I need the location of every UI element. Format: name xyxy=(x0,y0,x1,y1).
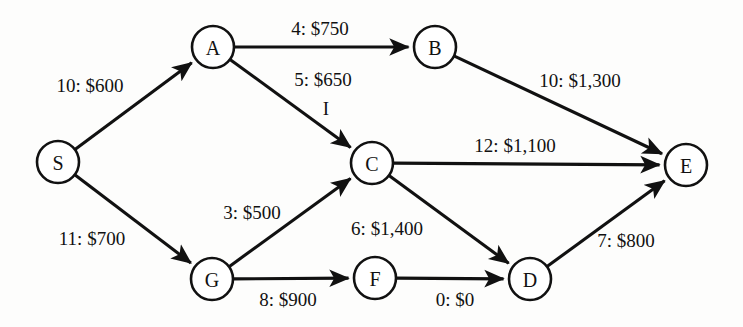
edge-g-f xyxy=(233,278,348,279)
node-e[interactable]: E xyxy=(665,144,707,186)
edge-label-b-e: 10: $1,300 xyxy=(539,70,620,91)
node-g[interactable]: G xyxy=(191,258,233,300)
edge-label-a-c: 5: $650 xyxy=(294,69,352,90)
node-label-s: S xyxy=(52,152,63,174)
node-a[interactable]: A xyxy=(192,26,234,68)
edge-c-e xyxy=(393,163,659,165)
edge-label-c-d: 6: $1,400 xyxy=(351,218,423,239)
edge-label-s-g: 11: $700 xyxy=(59,228,125,249)
edge-f-d xyxy=(396,278,503,279)
diagram-canvas: SABCDEFG 10: $60011: $7004: $7505: $6501… xyxy=(0,0,743,327)
edge-label-g-f: 8: $900 xyxy=(259,289,317,310)
node-label-e: E xyxy=(680,155,692,177)
artifacts-layer: I xyxy=(323,98,329,119)
node-label-b: B xyxy=(428,37,441,59)
edge-d-e xyxy=(547,181,664,267)
node-s[interactable]: S xyxy=(37,141,79,183)
tick-below-5-650-mark: I xyxy=(323,98,329,119)
node-c[interactable]: C xyxy=(351,142,393,184)
edge-label-f-d: 0: $0 xyxy=(436,289,475,310)
edge-label-g-c: 3: $500 xyxy=(223,202,281,223)
node-label-a: A xyxy=(206,37,221,59)
node-label-g: G xyxy=(205,269,219,291)
node-f[interactable]: F xyxy=(354,257,396,299)
network-graph: SABCDEFG 10: $60011: $7004: $7505: $6501… xyxy=(0,0,743,327)
edge-label-a-b: 4: $750 xyxy=(291,18,349,39)
edge-label-d-e: 7: $800 xyxy=(597,230,655,251)
node-d[interactable]: D xyxy=(509,258,551,300)
node-label-f: F xyxy=(369,268,380,290)
edge-label-c-e: 12: $1,100 xyxy=(474,135,555,156)
node-label-d: D xyxy=(523,269,537,291)
edge-s-g xyxy=(75,175,191,263)
edge-label-s-a: 10: $600 xyxy=(56,75,123,96)
node-label-c: C xyxy=(365,153,378,175)
node-b[interactable]: B xyxy=(414,26,456,68)
